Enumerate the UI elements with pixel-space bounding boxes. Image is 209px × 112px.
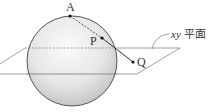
plane-label-leader bbox=[152, 34, 169, 49]
sphere-plane-figure bbox=[0, 0, 209, 112]
plane-label-text: 平面 bbox=[184, 28, 206, 40]
label-Q: Q bbox=[137, 56, 146, 68]
plane-label: xy 平面 bbox=[171, 29, 206, 40]
plane-label-var: xy bbox=[171, 28, 181, 40]
diagram-canvas: A P Q xy 平面 bbox=[0, 0, 209, 112]
point-Q bbox=[131, 60, 134, 63]
label-P: P bbox=[90, 35, 97, 47]
sphere bbox=[27, 16, 117, 106]
point-P bbox=[100, 36, 103, 39]
label-A: A bbox=[66, 1, 75, 13]
point-A bbox=[68, 14, 71, 17]
